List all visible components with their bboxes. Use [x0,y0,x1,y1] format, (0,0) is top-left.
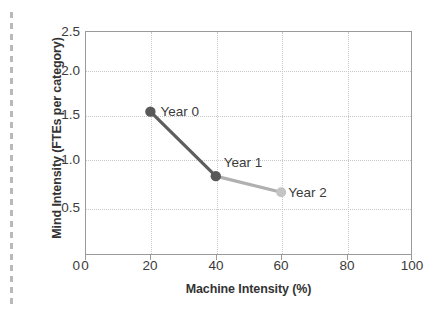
x-tick-label-20: 20 [127,258,173,273]
y-tick-label-2-0: 2.0 [38,63,80,78]
x-tick-label-100: 100 [389,258,435,273]
gridline-x-60 [282,32,283,254]
chart-figure: Mind Intensity (FTEs per category) 2.5 2… [0,0,445,318]
y-tick-label-1-0: 1.0 [38,152,80,167]
x-tick-label-0: 0 [62,258,108,273]
y-tick-label-1-5: 1.5 [38,107,80,122]
y-tick-label-2-5: 2.5 [38,24,80,39]
gridline-y-0-5 [86,209,411,210]
annotation-year-0: Year 0 [160,104,199,119]
plot-area [85,31,412,255]
gridline-x-40 [217,32,218,254]
y-axis-title: Mind Intensity (FTEs per category) [50,13,64,263]
annotation-year-1: Year 1 [224,155,263,170]
gridline-y-1-5 [86,116,411,117]
x-tick-label-60: 60 [258,258,304,273]
page-edge-dashed-marker [10,12,13,306]
x-axis-title: Machine Intensity (%) [85,282,412,296]
x-tick-label-80: 80 [324,258,370,273]
gridline-x-80 [348,32,349,254]
gridline-y-2-0 [86,71,411,72]
y-tick-label-0-5: 0.5 [38,200,80,215]
x-tick-label-40: 40 [193,258,239,273]
gridline-x-20 [151,32,152,254]
annotation-year-2: Year 2 [288,185,327,200]
